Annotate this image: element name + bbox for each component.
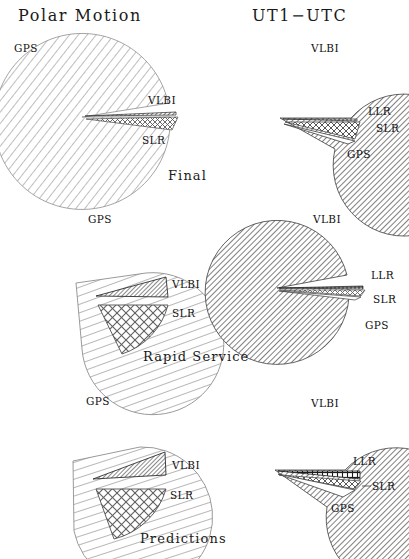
- row-caption-final: Final: [168, 168, 207, 183]
- row-caption-rapid-service: Rapid Service: [143, 349, 249, 364]
- pie-chart-ut1-utc-predictions: VLBI LLR SLR GPS: [205, 385, 409, 540]
- pie-label-llr: LLR: [368, 105, 392, 117]
- pie-label-vlbi: VLBI: [310, 397, 339, 409]
- pie-chart-polar-motion-rapid-service: GPS VLBI SLR: [0, 205, 210, 355]
- pie-label-vlbi: VLBI: [310, 42, 339, 54]
- row-caption-predictions: Predictions: [140, 531, 227, 546]
- pie-label-gps: GPS: [86, 395, 110, 407]
- column-title-ut1-utc: UT1−UTC: [252, 6, 347, 25]
- pie-chart-ut1-utc-final: VLBI LLR SLR GPS: [205, 32, 409, 182]
- pie-label-slr: SLR: [376, 122, 400, 134]
- pie-label-vlbi: VLBI: [312, 213, 341, 225]
- pie-label-slr: SLR: [373, 293, 397, 305]
- pie-label-vlbi: VLBI: [171, 459, 200, 471]
- pie-label-gps: GPS: [347, 148, 371, 160]
- pie-label-slr: SLR: [170, 489, 194, 501]
- pie-label-slr: SLR: [142, 134, 166, 146]
- pie-label-gps: GPS: [365, 319, 389, 331]
- pie-chart-polar-motion-predictions: GPS VLBI SLR: [0, 385, 210, 540]
- pie-label-slr: SLR: [372, 480, 396, 492]
- pie-label-vlbi: VLBI: [171, 278, 200, 290]
- pie-chart-ut1-utc-rapid-service: VLBI LLR SLR GPS: [205, 205, 409, 355]
- eop-contribution-figure: Polar Motion UT1−UTC: [0, 0, 409, 559]
- pie-label-vlbi: VLBI: [147, 94, 176, 106]
- pie-label-gps: GPS: [14, 42, 38, 54]
- pie-label-gps: GPS: [331, 502, 355, 514]
- column-title-polar-motion: Polar Motion: [18, 6, 142, 25]
- pie-label-llr: LLR: [353, 455, 377, 467]
- pie-label-slr: SLR: [172, 307, 196, 319]
- pie-label-gps: GPS: [88, 213, 112, 225]
- pie-label-llr: LLR: [371, 269, 395, 281]
- pie-chart-polar-motion-final: GPS VLBI SLR: [0, 32, 210, 182]
